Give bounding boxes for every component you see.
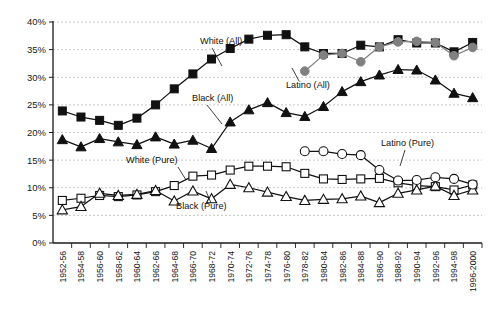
xtick-label: 1952-56 [58,251,68,283]
data-point [170,85,178,93]
chart-container: 0%5%10%15%20%25%30%35%40%1952-561954-581… [0,0,489,309]
data-point [206,143,216,152]
ytick-label: 10% [27,182,47,193]
xtick-label: 1970-74 [226,251,236,283]
annotation-leader [178,167,186,180]
data-point [114,121,122,129]
data-point [282,31,290,39]
xtick-label: 1994-98 [449,251,459,283]
data-point [431,173,440,182]
data-point [431,38,440,47]
xtick-label: 1956-60 [95,251,105,283]
xtick-label: 1986-90 [375,251,385,283]
data-point [281,108,291,117]
series-annotation-black-pure: Black (Pure) [176,201,227,211]
data-point [319,147,328,156]
annotation-leader [207,105,222,124]
data-point [319,175,327,183]
data-point [188,186,198,195]
data-point [375,174,383,182]
data-point [394,38,403,47]
ytick-label: 35% [27,44,47,55]
data-point [430,75,440,84]
data-point [208,55,216,63]
xtick-label: 1990-94 [412,251,422,283]
ytick-label: 5% [32,210,46,221]
data-point [262,98,272,107]
data-point [188,135,198,144]
data-point [357,41,365,49]
data-point [450,174,459,183]
data-point [264,162,272,170]
data-point [468,43,477,52]
data-point [394,176,403,185]
data-point [375,43,384,52]
xtick-label: 1964-68 [170,251,180,283]
series-white-all [58,31,476,130]
data-point [412,37,421,46]
data-point [301,67,310,76]
data-point [300,147,309,156]
xtick-label: 1984-88 [356,251,366,283]
data-point [152,101,160,109]
data-point [95,133,105,142]
data-point [170,182,178,190]
data-point [58,107,66,115]
data-point [374,198,384,207]
data-point [319,51,328,60]
ytick-label: 40% [27,16,47,27]
data-point [356,191,366,200]
ytick-label: 20% [27,127,47,138]
series-line [305,41,473,71]
xtick-label: 1976-80 [282,251,292,283]
data-point [57,135,67,144]
ytick-label: 0% [32,237,46,248]
series-annotation-latino-all: Latino (All) [286,80,330,90]
data-point [468,180,477,189]
series-annotation-white-pure: White (Pure) [126,155,178,165]
data-point [208,171,216,179]
data-point [133,114,141,122]
xtick-label: 1958-62 [114,251,124,283]
data-point [77,113,85,121]
data-point [449,88,459,97]
ytick-label: 15% [27,155,47,166]
xtick-label: 1972-76 [244,251,254,283]
data-point [301,43,309,51]
data-point [264,31,272,39]
data-point [356,77,366,86]
xtick-label: 1988-92 [393,251,403,283]
data-point [225,117,235,126]
data-point [338,150,347,159]
series-annotation-black-all: Black (All) [192,93,233,103]
data-point [282,163,290,171]
data-point [225,179,235,188]
data-point [301,169,309,177]
series-line [62,70,472,149]
annotation-leader [400,150,405,166]
xtick-label: 1982-86 [338,251,348,283]
xtick-label: 1960-64 [132,251,142,283]
data-point [357,175,365,183]
data-point [356,151,365,160]
series-annotation-white-all: White (All) [200,36,242,46]
data-point [393,64,403,73]
xtick-label: 1968-72 [207,251,217,283]
data-point [245,162,253,170]
data-point [58,196,66,204]
data-point [189,70,197,78]
data-point [226,166,234,174]
xtick-label: 1974-78 [263,251,273,283]
data-point [96,116,104,124]
xtick-label: 1978-82 [300,251,310,283]
data-point [318,101,328,110]
series-line [62,35,472,126]
xtick-label: 1966-70 [188,251,198,283]
xtick-label: 1980-84 [319,251,329,283]
data-point [450,51,459,60]
data-point [76,142,86,151]
data-point [375,166,384,175]
ytick-label: 30% [27,72,47,83]
data-point [245,35,253,43]
ytick-label: 25% [27,99,47,110]
